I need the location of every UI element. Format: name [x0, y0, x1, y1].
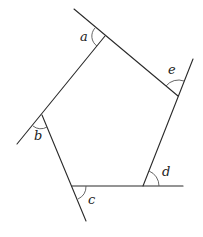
side-extension-lower-left [42, 115, 86, 221]
angle-label-a: a [80, 29, 88, 44]
angle-arc-c [78, 186, 86, 199]
angle-arc-e [166, 80, 184, 86]
angle-arc-d [149, 171, 159, 186]
side-extension-upper-left [17, 36, 105, 144]
side-extension-top [74, 9, 178, 96]
angle-label-c: c [88, 192, 96, 207]
angle-arc-a [92, 28, 97, 46]
angle-label-b: b [34, 128, 42, 143]
angle-label-e: e [168, 62, 176, 77]
pentagon-diagram: a e b c d [0, 0, 203, 237]
angle-label-d: d [162, 164, 170, 179]
